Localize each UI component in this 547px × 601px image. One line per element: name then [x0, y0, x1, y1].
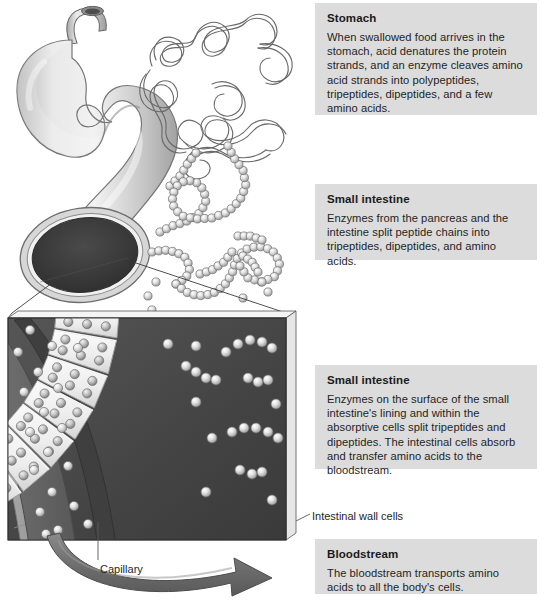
absorptive-cell-blocks: [0, 303, 120, 525]
info-box-small-intestine-lumen-body: Enzymes from the pancreas and the intest…: [327, 211, 525, 268]
label-capillary: Capillary: [100, 563, 143, 575]
info-box-bloodstream-body: The bloodstream transports amino acids t…: [327, 566, 525, 594]
info-box-small-intestine-wall: Small intestine Enzymes on the surface o…: [315, 365, 537, 469]
absorptive-cell: [6, 404, 73, 467]
outer-muscle-band: [0, 318, 56, 552]
stomach-organ-group: [14, 6, 177, 310]
capillary-band: [0, 318, 76, 552]
info-box-stomach: Stomach When swallowed food arrives in t…: [315, 3, 537, 115]
magnified-intestinal-wall-panel: [0, 303, 296, 552]
info-box-stomach-body: When swallowed food arrives in the stoma…: [327, 30, 525, 115]
amino-acid-transport-arrow: [47, 533, 272, 596]
info-box-small-intestine-wall-body: Enzymes on the surface of the small inte…: [327, 392, 525, 477]
stomach-lumen: [27, 211, 142, 299]
info-box-bloodstream-title: Bloodstream: [327, 548, 525, 561]
absorptive-cell: [0, 442, 21, 511]
basement-membrane-arc: [14, 318, 116, 548]
absorptive-cell: [24, 381, 93, 439]
info-box-stomach-title: Stomach: [327, 12, 525, 25]
info-box-small-intestine-wall-title: Small intestine: [327, 374, 525, 387]
protein-strands-group: [140, 14, 292, 179]
label-intestinal-wall-cells: Intestinal wall cells: [312, 510, 403, 522]
illustration-page: Stomach When swallowed food arrives in t…: [0, 0, 547, 601]
absorptive-cell: [0, 425, 49, 492]
magnification-leader-lines: [8, 262, 286, 318]
absorptive-cell: [55, 303, 120, 338]
info-box-small-intestine-lumen: Small intestine Enzymes from the pancrea…: [315, 184, 537, 260]
info-box-bloodstream: Bloodstream The bloodstream transports a…: [315, 539, 537, 594]
absorptive-cell: [48, 330, 116, 374]
absorptive-cell: [38, 356, 107, 407]
wall-cells-leader: [296, 514, 310, 521]
peptide-chains-group: [144, 142, 284, 350]
label-leader-lines: [98, 514, 310, 560]
info-box-small-intestine-lumen-title: Small intestine: [327, 193, 525, 206]
panel-lumen-background: [8, 318, 286, 540]
panel-spheres: [13, 307, 283, 538]
